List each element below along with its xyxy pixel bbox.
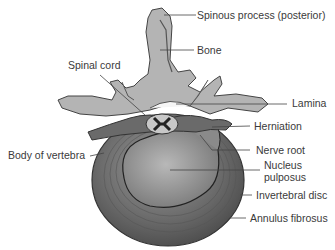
label-nucleus-pulposus-1: Nucleus [264,160,302,171]
label-spinal-cord: Spinal cord [68,60,121,71]
label-lamina: Lamina [292,98,326,109]
label-herniation: Herniation [254,121,302,132]
label-nucleus-pulposus-2: pulposus [264,172,306,183]
label-body-of-vertebra: Body of vertebra [8,150,85,161]
label-bone: Bone [197,45,222,56]
label-annulus-fibrosus: Annulus fibrosus [250,213,328,224]
label-spinous-process: Spinous process (posterior) [197,10,325,21]
label-nerve-root: Nerve root [256,145,305,156]
label-intervertebral-disc: Invertebral disc [256,190,327,201]
